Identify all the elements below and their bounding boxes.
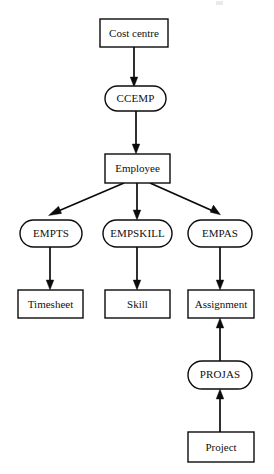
node-project-label: Project — [205, 441, 236, 453]
diagram-svg: Cost centre Employee Timesheet Skill Ass… — [0, 0, 274, 474]
node-empas-label: EMPAS — [202, 227, 238, 239]
edge-project-to-projas — [216, 389, 224, 432]
node-timesheet-label: Timesheet — [28, 298, 73, 310]
node-employee-label: Employee — [115, 162, 160, 174]
edge-employee-to-empts — [49, 183, 125, 216]
node-ccemp[interactable]: CCEMP — [105, 86, 166, 111]
node-project[interactable]: Project — [188, 432, 254, 462]
node-timesheet[interactable]: Timesheet — [18, 290, 83, 318]
node-projas[interactable]: PROJAS — [188, 361, 252, 389]
edge-projas-to-assignment — [216, 318, 224, 361]
edge-empts-to-timesheet — [46, 247, 54, 290]
node-empts-label: EMPTS — [33, 227, 69, 239]
node-cost-centre-label: Cost centre — [109, 27, 159, 39]
node-cost-centre[interactable]: Cost centre — [100, 19, 168, 47]
scan-artifact-mark — [216, 1, 223, 5]
node-skill[interactable]: Skill — [105, 290, 170, 318]
edge-ccemp-to-employee — [132, 111, 140, 154]
edge-cost-centre-to-ccemp — [130, 47, 138, 87]
node-empskill[interactable]: EMPSKILL — [103, 220, 172, 247]
node-empts[interactable]: EMPTS — [20, 220, 82, 247]
node-assignment[interactable]: Assignment — [188, 290, 254, 318]
edge-empas-to-assignment — [216, 247, 224, 290]
node-empskill-label: EMPSKILL — [110, 227, 165, 239]
node-employee[interactable]: Employee — [105, 154, 170, 183]
edge-employee-to-empskill — [133, 183, 141, 220]
node-ccemp-label: CCEMP — [117, 92, 155, 104]
diagram-canvas: Cost centre Employee Timesheet Skill Ass… — [0, 0, 274, 474]
edge-empskill-to-skill — [133, 247, 141, 290]
node-assignment-label: Assignment — [195, 298, 248, 310]
edge-employee-to-empas — [150, 183, 221, 215]
node-projas-label: PROJAS — [200, 368, 240, 380]
node-empas[interactable]: EMPAS — [188, 220, 252, 247]
node-skill-label: Skill — [127, 298, 148, 310]
